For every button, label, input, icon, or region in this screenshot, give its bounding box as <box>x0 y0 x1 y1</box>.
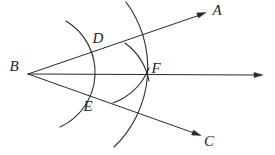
ray-B-to-C <box>28 74 194 133</box>
arrowhead-right-icon <box>254 72 263 77</box>
ray-B-through-F-horizontal <box>28 74 256 75</box>
point-label-B: B <box>9 59 18 74</box>
ray-B-to-A <box>28 15 200 74</box>
arrowhead-C-icon <box>192 130 201 135</box>
point-label-F: F <box>151 61 160 76</box>
point-label-E: E <box>83 99 92 114</box>
point-label-D: D <box>93 31 104 46</box>
arrowhead-A-icon <box>197 13 206 18</box>
point-label-A: A <box>212 3 221 18</box>
construction-svg <box>0 0 275 155</box>
geometry-figure: A B C D E F <box>0 0 275 155</box>
point-label-C: C <box>204 134 214 149</box>
